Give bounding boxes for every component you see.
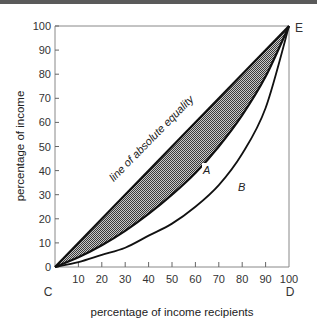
y-tick-label: 10	[39, 237, 51, 249]
corner-label-e: E	[295, 21, 303, 35]
x-tick-label: 60	[189, 273, 201, 285]
y-axis-label: percentage of income	[14, 91, 26, 202]
curves	[55, 26, 289, 267]
x-axis-label: percentage of income recipients	[90, 306, 253, 318]
x-tick-label: 90	[259, 273, 271, 285]
y-tick-label: 40	[39, 165, 51, 177]
x-tick-label: 10	[72, 273, 84, 285]
x-tick-label: 40	[142, 273, 154, 285]
x-tick-label: 50	[166, 273, 178, 285]
corner-label-d: D	[286, 285, 295, 299]
curve-a-label: A	[202, 164, 210, 176]
x-tick-label: 100	[280, 273, 298, 285]
y-tick-label: 30	[39, 189, 51, 201]
y-tick-label: 0	[45, 261, 51, 273]
x-tick-label: 20	[96, 273, 108, 285]
corner-label-c: C	[44, 285, 53, 299]
y-tick-label: 50	[39, 141, 51, 153]
y-tick-label: 90	[39, 44, 51, 56]
y-tick-label: 100	[33, 20, 51, 32]
x-tick-label: 30	[119, 273, 131, 285]
equality-line	[55, 26, 289, 267]
x-tick-label: 70	[213, 273, 225, 285]
y-tick-label: 80	[39, 68, 51, 80]
lorenz-chart: 0102030405060708090100102030405060708090…	[0, 0, 317, 328]
curve-b-label: B	[238, 181, 245, 193]
y-tick-label: 60	[39, 116, 51, 128]
x-tick-label: 80	[236, 273, 248, 285]
y-tick-label: 70	[39, 92, 51, 104]
y-tick-label: 20	[39, 213, 51, 225]
